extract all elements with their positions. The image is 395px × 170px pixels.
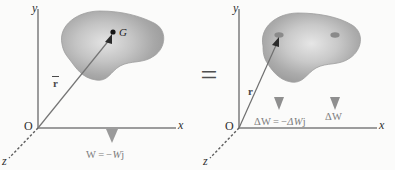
- right-panel-elemental-weights: y x z O r ΔW=−ΔWj ΔW: [197, 0, 395, 170]
- mechanics-figure: y x z O G r W=−Wj =: [0, 0, 395, 170]
- elemental-weight-unit-vector-symbol: j: [303, 116, 306, 127]
- y-axis-label: y: [32, 2, 37, 14]
- position-vector-arrow: [239, 37, 279, 128]
- weight-vector-symbol: W: [86, 149, 96, 160]
- left-panel-resultant-weight: y x z O G r W=−Wj: [0, 0, 198, 170]
- position-vector-label: r: [248, 86, 253, 97]
- origin-label: O: [225, 120, 234, 132]
- z-axis-label: z: [203, 155, 208, 167]
- right-panel-graphics: [197, 0, 395, 170]
- elemental-weight-label-1: ΔW=−ΔWj: [254, 117, 306, 128]
- position-vector-label: r: [53, 78, 58, 89]
- elemental-weight-vector-symbol: ΔW: [254, 116, 271, 127]
- left-panel-graphics: [0, 0, 198, 170]
- weight-unit-vector-symbol: j: [121, 149, 124, 160]
- y-axis-label: y: [233, 2, 238, 14]
- elemental-weight-magnitude-symbol: ΔW: [287, 116, 302, 127]
- elemental-weight-equals-sign: =: [273, 116, 279, 127]
- elemental-weight-label-2: ΔW: [325, 112, 342, 123]
- rigid-body-blob: [262, 13, 360, 82]
- position-vector-symbol: r: [53, 78, 58, 89]
- weight-magnitude-symbol: W: [112, 149, 121, 160]
- weight-equals-sign: =: [98, 149, 104, 160]
- center-of-gravity-label: G: [119, 27, 127, 38]
- center-of-gravity-point: [110, 29, 115, 34]
- z-axis-label: z: [2, 155, 7, 167]
- weight-force-label: W=−Wj: [86, 150, 124, 161]
- x-axis-label: x: [379, 119, 384, 131]
- x-axis-label: x: [178, 119, 183, 131]
- origin-label: O: [24, 120, 33, 132]
